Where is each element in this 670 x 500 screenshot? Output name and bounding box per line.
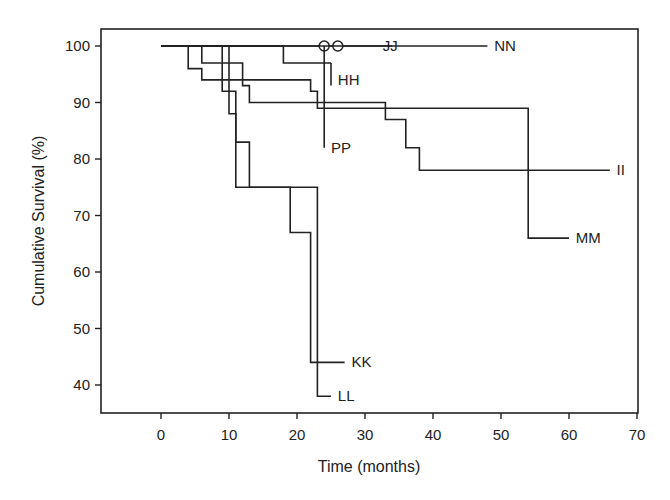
x-tick-label: 0 — [157, 426, 165, 443]
curve-label: NN — [494, 37, 516, 54]
curve-kk: KK — [161, 46, 371, 370]
curve-label: II — [617, 161, 625, 178]
x-tick-label: 30 — [357, 426, 374, 443]
curve-label: KK — [351, 353, 371, 370]
curve-label: JJ — [383, 37, 398, 54]
y-tick-label: 60 — [73, 263, 90, 280]
y-tick-label: 40 — [73, 376, 90, 393]
y-tick-label: 50 — [73, 320, 90, 337]
x-tick-label: 50 — [493, 426, 510, 443]
survival-curves: NNJJHHPPIIMMKKLL — [161, 37, 625, 404]
x-axis: 010203040506070 — [157, 413, 646, 443]
y-tick-label: 70 — [73, 207, 90, 224]
y-tick-label: 100 — [65, 37, 90, 54]
y-tick-label: 80 — [73, 150, 90, 167]
curve-ii: II — [161, 46, 625, 178]
curve-label: PP — [331, 139, 351, 156]
x-tick-label: 60 — [561, 426, 578, 443]
y-axis: 405060708090100 — [65, 37, 101, 393]
curve-hh: HH — [161, 46, 359, 88]
y-tick-label: 90 — [73, 94, 90, 111]
y-axis-title: Cumulative Survival (%) — [30, 136, 47, 307]
x-axis-title: Time (months) — [318, 458, 421, 475]
x-tick-label: 20 — [289, 426, 306, 443]
survival-chart: 010203040506070 405060708090100 NNJJHHPP… — [0, 0, 670, 500]
curve-label: LL — [338, 387, 355, 404]
x-tick-label: 70 — [629, 426, 646, 443]
curve-ll: LL — [161, 46, 354, 404]
x-tick-label: 10 — [221, 426, 238, 443]
x-tick-label: 40 — [425, 426, 442, 443]
curve-label: HH — [338, 71, 360, 88]
curve-label: MM — [576, 229, 601, 246]
curve-mm: MM — [161, 46, 601, 246]
